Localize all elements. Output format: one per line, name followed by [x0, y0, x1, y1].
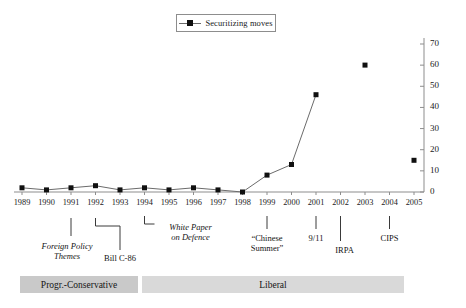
annotation-leader-elbow [145, 216, 155, 224]
legend-label: Securitizing moves [205, 18, 272, 28]
data-point-marker [118, 187, 123, 192]
y-axis-tick-label: 0 [430, 186, 450, 196]
annotation-line-1: CIPS [354, 233, 426, 243]
data-point-marker [191, 185, 196, 190]
series-line [22, 95, 316, 192]
series-securitizing-moves [20, 63, 417, 195]
chart-root: Securitizing moves 010203040506070 19891… [0, 0, 466, 308]
data-point-marker [412, 158, 417, 163]
annotation-irpa: IRPA [309, 245, 381, 255]
data-point-marker [44, 187, 49, 192]
legend-marker-swatch [179, 19, 201, 28]
data-point-marker [69, 185, 74, 190]
government-bar-progr-conservative: Progr.-Conservative [20, 276, 138, 293]
y-axis-tick-label: 40 [430, 101, 450, 111]
annotation-bill-c-86: Bill C-86 [84, 253, 156, 263]
y-axis-tick-label: 30 [430, 123, 450, 133]
y-axis-tick-label: 10 [430, 165, 450, 175]
government-bar-label: Liberal [259, 280, 286, 290]
annotation-line-1: White Paper [155, 222, 227, 232]
filled-square-marker-icon [187, 20, 193, 26]
x-axis-tick-label: 2005 [399, 198, 429, 207]
y-axis-tick-label: 60 [430, 59, 450, 69]
data-point-marker [20, 185, 25, 190]
data-point-marker [216, 187, 221, 192]
annotation-line-1: 9/11 [280, 233, 352, 243]
data-point-marker [240, 190, 245, 195]
y-axis-tick-label: 70 [430, 38, 450, 48]
annotation-line-2: Summer” [231, 243, 303, 253]
government-bar-label: Progr.-Conservative [41, 280, 117, 290]
annotation-white-paper-on-defence: White Paperon Defence [155, 222, 227, 242]
y-axis-tick-label: 50 [430, 80, 450, 90]
data-point-marker [314, 92, 319, 97]
y-axis-tick-label: 20 [430, 144, 450, 154]
data-point-marker [265, 173, 270, 178]
data-point-marker [167, 187, 172, 192]
annotation-cips: CIPS [354, 233, 426, 243]
government-bar-liberal: Liberal [142, 276, 404, 293]
annotation-line-1: IRPA [309, 245, 381, 255]
chart-legend: Securitizing moves [176, 14, 276, 32]
annotation-nine-eleven: 9/11 [280, 233, 352, 243]
annotation-line-1: Foreign Policy [31, 241, 103, 251]
plot-area [0, 0, 466, 308]
data-point-marker [363, 63, 368, 68]
annotation-line-2: on Defence [155, 232, 227, 242]
data-point-marker [289, 162, 294, 167]
data-point-marker [93, 183, 98, 188]
data-point-marker [142, 185, 147, 190]
annotation-line-1: Bill C-86 [84, 253, 156, 263]
axis-layer [14, 38, 424, 195]
